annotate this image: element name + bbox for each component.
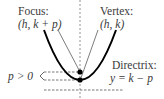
focus-leader-line [58,30,79,70]
focus-point [77,69,82,74]
vertex-coords: (h, k) [100,18,124,30]
p-positive-label: p > 0 [8,70,33,82]
p-brace [40,72,44,80]
focus-coords: (h, k + p) [18,18,62,30]
vertex-title: Vertex: [100,5,133,17]
focus-title: Focus: [18,5,49,17]
directrix-title: Directrix: [112,59,157,71]
directrix-equation: y = k − p [110,72,153,84]
vertex-point [77,77,82,82]
parabola-diagram: Focus: (h, k + p) Vertex: (h, k) Directr… [0,0,164,99]
